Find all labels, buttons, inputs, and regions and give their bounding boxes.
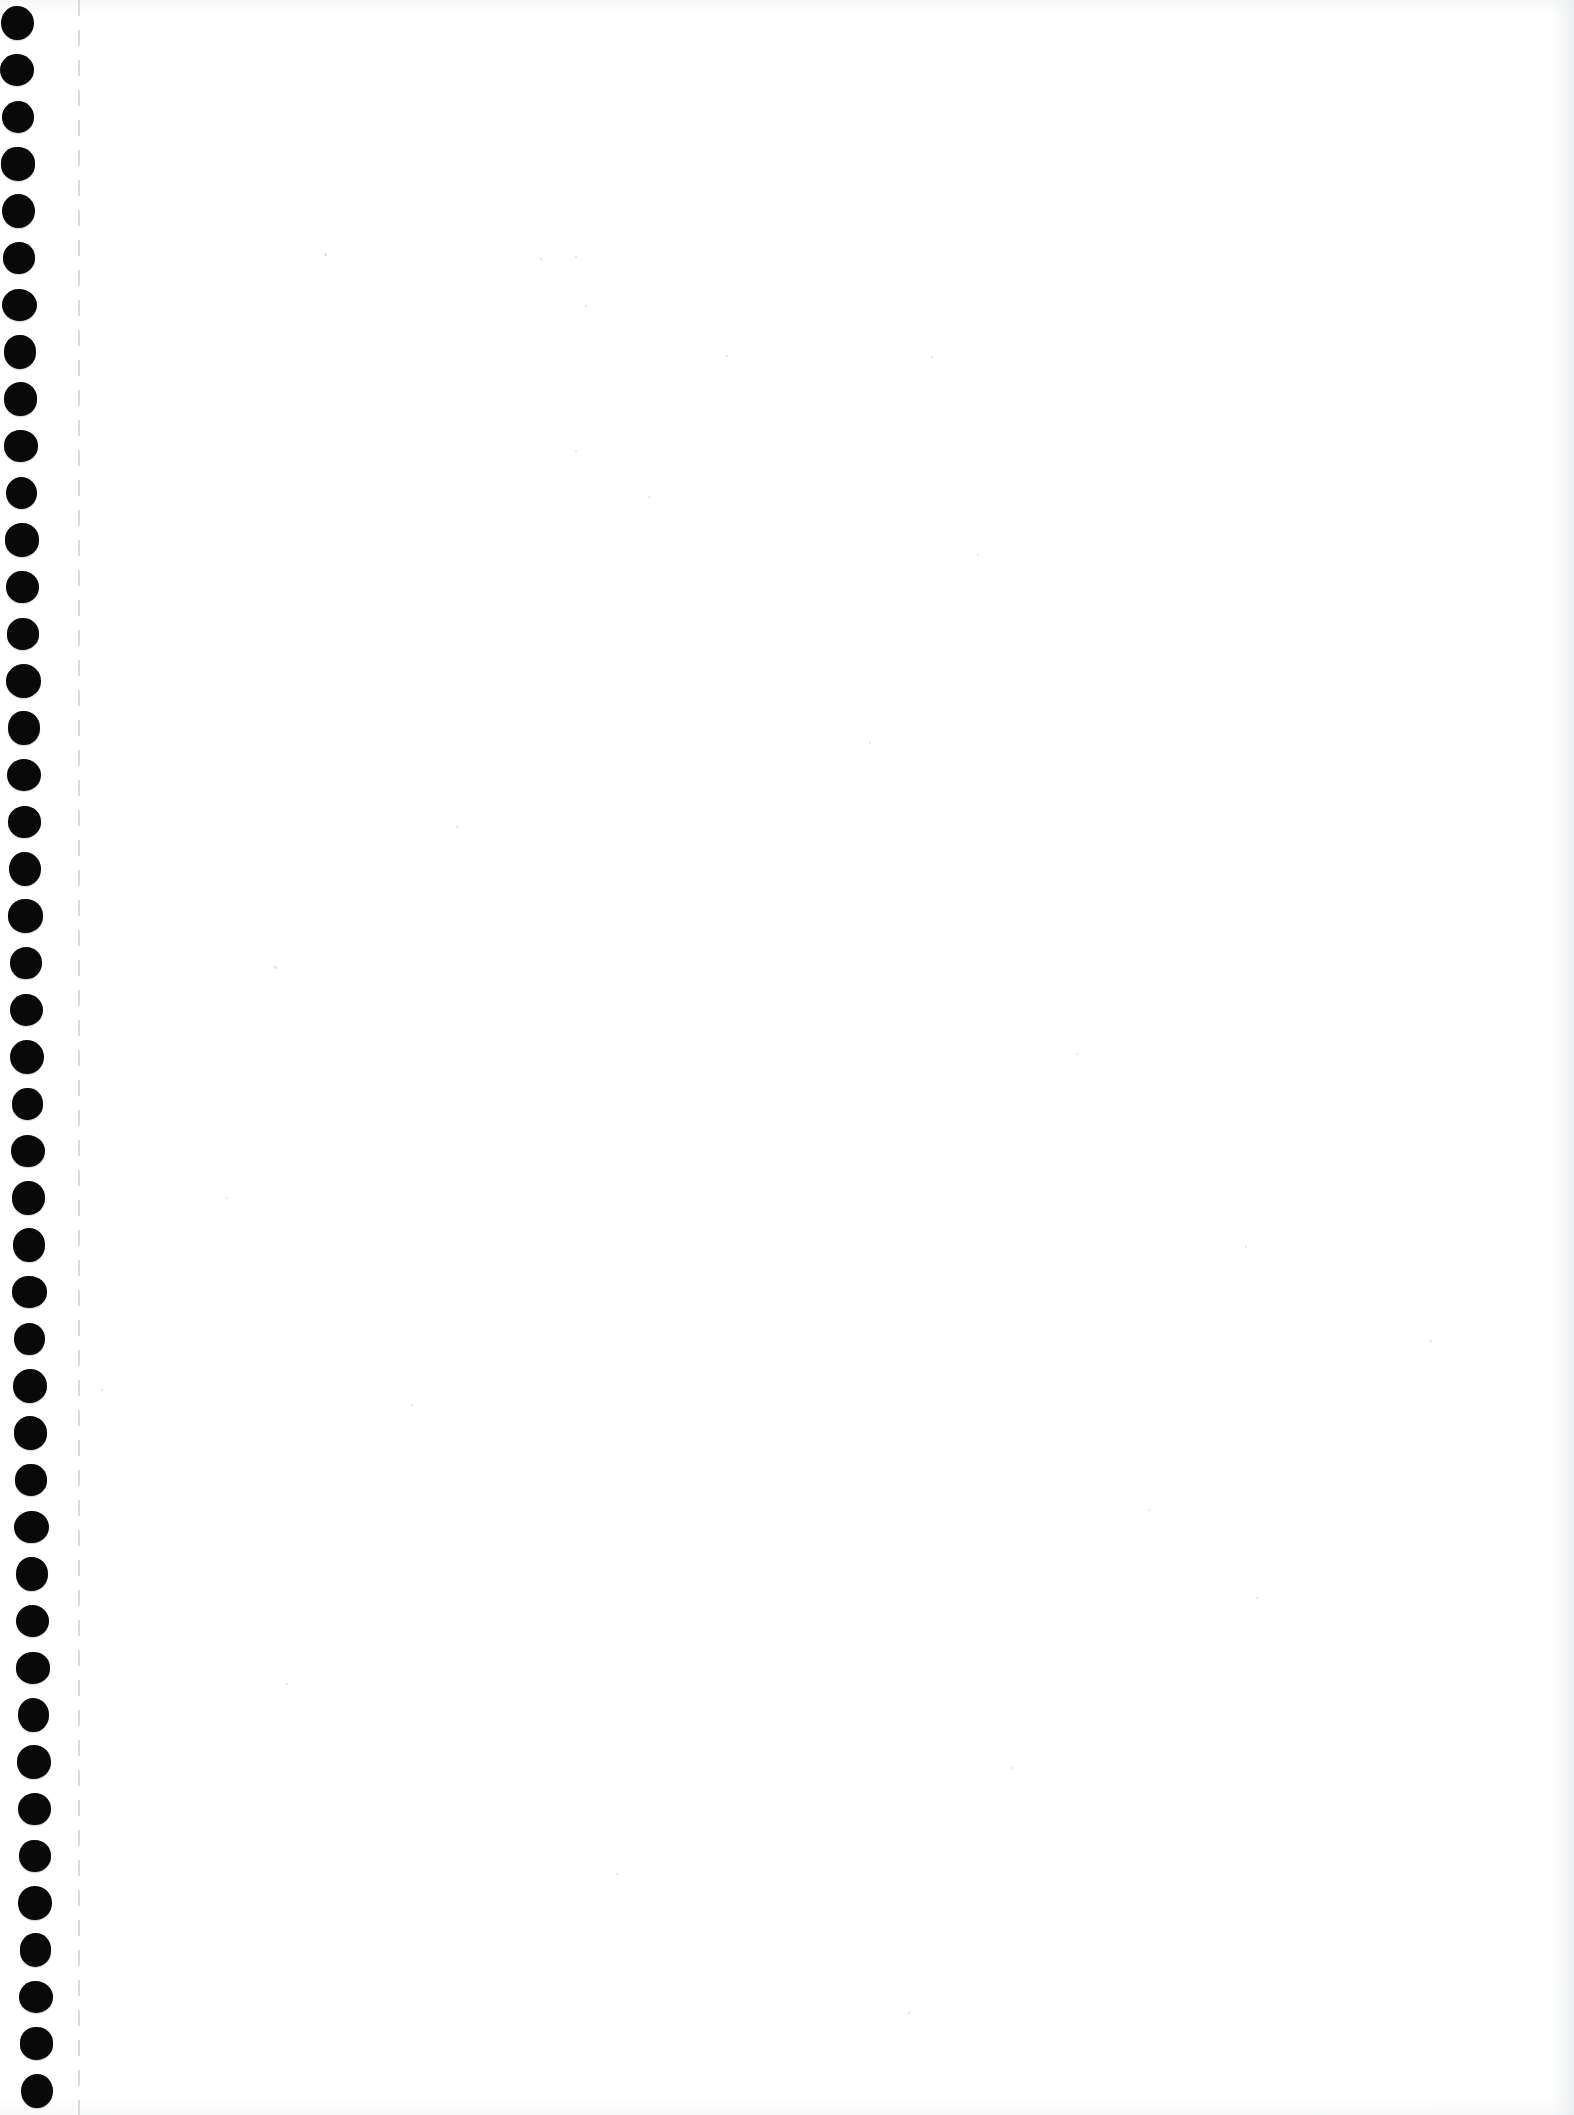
binding-hole xyxy=(7,759,41,791)
scan-speck xyxy=(1245,1246,1247,1248)
scan-speck xyxy=(456,826,458,828)
binding-hole xyxy=(11,1135,45,1167)
binding-hole xyxy=(8,806,41,838)
binding-hole xyxy=(15,1464,47,1496)
scan-speck xyxy=(1148,1509,1150,1511)
binding-hole xyxy=(10,1040,44,1074)
scan-speck xyxy=(286,1683,288,1685)
scan-speck xyxy=(324,253,327,256)
binding-hole xyxy=(16,1652,50,1684)
scan-speck xyxy=(616,1873,618,1875)
perforation-tear-line xyxy=(78,0,80,2115)
binding-hole xyxy=(19,1840,51,1872)
binding-hole xyxy=(14,1323,46,1355)
binding-hole xyxy=(18,1793,51,1825)
binding-hole xyxy=(12,1276,46,1308)
scan-speck xyxy=(908,2012,910,2014)
binding-hole xyxy=(20,2027,54,2060)
binding-hole xyxy=(0,54,34,87)
scanned-page xyxy=(0,0,1574,2115)
binding-hole xyxy=(6,477,38,510)
binding-hole xyxy=(5,523,40,557)
binding-hole xyxy=(17,1745,51,1779)
scan-speck xyxy=(726,355,728,357)
binding-hole xyxy=(7,618,40,650)
binding-hole xyxy=(21,2074,52,2108)
binding-hole xyxy=(18,1698,49,1732)
binding-hole xyxy=(19,1981,52,2013)
binding-hole-margin xyxy=(0,0,96,2115)
binding-hole xyxy=(16,1557,48,1591)
scan-speck xyxy=(575,450,577,452)
scan-speck xyxy=(101,1389,103,1391)
binding-hole xyxy=(14,1511,49,1544)
binding-hole xyxy=(18,1886,53,1920)
binding-hole xyxy=(2,289,37,321)
binding-hole xyxy=(1,147,35,181)
scan-speck xyxy=(540,258,542,260)
binding-hole xyxy=(10,947,42,979)
scan-speck xyxy=(274,966,277,969)
binding-hole xyxy=(12,1088,43,1121)
scan-speck xyxy=(1076,1053,1078,1055)
binding-hole xyxy=(8,899,43,932)
binding-hole xyxy=(10,994,43,1027)
binding-hole xyxy=(13,1228,45,1262)
binding-hole xyxy=(16,1605,49,1638)
page-body-blank-area xyxy=(96,0,1574,2115)
binding-hole xyxy=(4,335,36,369)
scan-speck xyxy=(585,305,587,307)
binding-hole xyxy=(20,1933,52,1966)
binding-hole xyxy=(12,1181,45,1215)
scan-speck xyxy=(648,496,650,498)
scan-speck xyxy=(977,554,979,556)
binding-hole xyxy=(14,1416,47,1449)
scan-speck xyxy=(931,356,933,358)
scan-speck xyxy=(1012,1767,1014,1769)
binding-hole xyxy=(1,6,34,40)
scan-speck xyxy=(226,1197,228,1199)
binding-hole xyxy=(6,571,38,604)
binding-hole xyxy=(8,711,39,745)
binding-hole xyxy=(2,194,35,228)
binding-hole xyxy=(6,664,40,698)
scan-speck xyxy=(869,742,871,744)
binding-hole xyxy=(3,242,35,274)
binding-hole xyxy=(2,101,33,133)
binding-hole xyxy=(4,382,38,416)
scan-speck xyxy=(1430,1340,1432,1342)
binding-hole xyxy=(9,852,41,886)
binding-hole xyxy=(4,430,38,462)
scan-speck xyxy=(1256,1597,1258,1599)
scan-speck xyxy=(575,256,577,258)
binding-hole xyxy=(13,1369,47,1403)
scan-speck xyxy=(411,1404,413,1406)
